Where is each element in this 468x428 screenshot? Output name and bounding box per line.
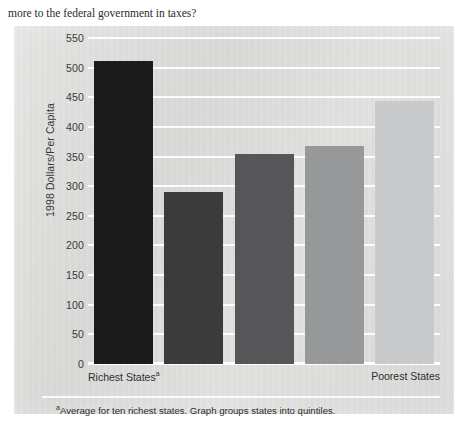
x-axis-label-poorest: Poorest States [371, 370, 440, 382]
body-paragraph-text: more to the federal government in taxes? [8, 0, 458, 26]
x-axis-labels: Richest Statesa Poorest States [88, 370, 440, 388]
y-tick-label-300: 300 [38, 180, 84, 192]
figure-panel: 1998 Dollars/Per Capita 5505004504003503… [14, 26, 454, 414]
footnote-divider [42, 396, 440, 398]
y-tick-label-250: 250 [38, 210, 84, 222]
footnote-marker-a: a [156, 370, 160, 377]
figure-footnote: aAverage for ten richest states. Graph g… [56, 404, 436, 416]
bar-2 [164, 192, 223, 364]
y-tick-label-350: 350 [38, 151, 84, 163]
bar-1 [94, 61, 153, 364]
plot-area [88, 38, 440, 364]
y-tick-label-400: 400 [38, 121, 84, 133]
footnote-text: Average for ten richest states. Graph gr… [60, 405, 336, 416]
y-axis-tick-labels: 550500450400350300250200150100500 [28, 38, 84, 364]
y-tick-label-500: 500 [38, 62, 84, 74]
x-axis-label-richest: Richest Statesa [88, 370, 160, 383]
y-tick-label-150: 150 [38, 269, 84, 281]
gridline-550 [88, 37, 440, 39]
y-tick-label-100: 100 [38, 299, 84, 311]
bar-5 [375, 101, 434, 364]
bar-4 [305, 146, 364, 364]
bar-3 [235, 154, 294, 364]
y-tick-label-550: 550 [38, 32, 84, 44]
y-tick-label-200: 200 [38, 239, 84, 251]
y-tick-label-450: 450 [38, 91, 84, 103]
x-axis-label-richest-text: Richest States [88, 371, 156, 383]
y-tick-label-50: 50 [38, 328, 84, 340]
y-tick-label-0: 0 [38, 358, 84, 370]
